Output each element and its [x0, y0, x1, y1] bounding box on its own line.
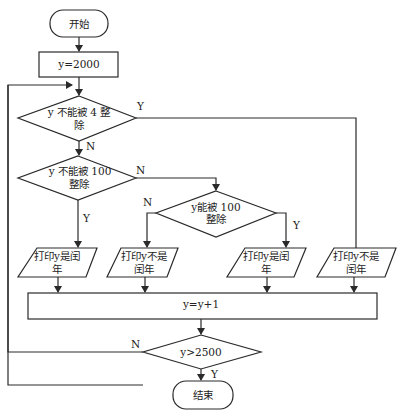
init-label: y=2000 [57, 58, 99, 70]
increment-node: y=y+1 [28, 293, 377, 319]
arrow-cond2-no [136, 178, 216, 190]
out3-line2: 年 [261, 263, 271, 275]
cond1-line2: 除 [74, 119, 85, 131]
out2-line1: 打印y不是 [121, 250, 168, 262]
cond2-yes-label: Y [82, 212, 91, 224]
cond2-no-label: N [136, 164, 145, 176]
start-label: 开始 [69, 18, 90, 30]
condition-greater-than-2500: y>2500 [143, 335, 261, 369]
cond2-line1: y 不能被 100 [48, 165, 112, 177]
out1-line1: 打印y是闰 [34, 250, 80, 262]
cond4-yes-label: Y [210, 368, 219, 380]
start-node: 开始 [50, 10, 108, 37]
out4-line2: 闰年 [346, 263, 366, 275]
output-leap-year-2: 打印y是闰 年 [227, 248, 306, 277]
cond3-yes-label: Y [292, 219, 301, 231]
cond3-no-label: N [143, 196, 152, 208]
condition-not-divisible-by-100: y 不能被 100 整除 [18, 156, 136, 200]
end-node: 结束 [173, 381, 233, 409]
cond4-label: y>2500 [179, 346, 221, 358]
flowchart-canvas: 开始 y=2000 y 不能被 4 整 除 Y N y 不能被 100 整除 N… [0, 0, 401, 415]
cond2-line2: 整除 [69, 178, 90, 190]
out3-line1: 打印y是闰 [243, 250, 289, 262]
output-not-leap-year-2: 打印y不是 闰年 [317, 248, 396, 277]
cond1-line1: y 不能被 4 整 [47, 106, 112, 118]
out1-line2: 年 [52, 263, 62, 275]
init-node: y=2000 [39, 52, 118, 77]
out4-line1: 打印y不是 [333, 250, 380, 262]
arrow-cond3-no [147, 213, 156, 247]
out2-line2: 闰年 [134, 263, 154, 275]
cond1-yes-label: Y [136, 100, 145, 112]
increment-label: y=y+1 [182, 298, 219, 310]
end-label: 结束 [193, 389, 214, 401]
arrow-cond1-yes [136, 118, 356, 257]
output-not-leap-year-1: 打印y不是 闰年 [107, 248, 178, 277]
cond4-no-label: N [131, 338, 140, 350]
cond3-line1: y能被 100 [190, 201, 240, 213]
cond3-line2: 整除 [206, 213, 227, 225]
output-leap-year-1: 打印y是闰 年 [18, 248, 97, 277]
cond1-no-label: N [86, 140, 95, 152]
arrow-cond3-yes [276, 213, 286, 247]
condition-not-divisible-by-4: y 不能被 4 整 除 [18, 96, 136, 141]
condition-divisible-by-100: y能被 100 整除 [156, 191, 276, 237]
